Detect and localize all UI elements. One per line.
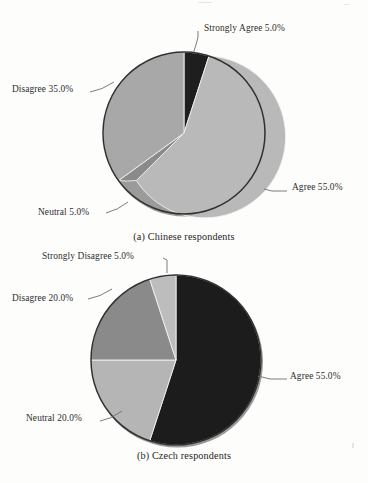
pie-b-canvas <box>0 243 368 483</box>
pie-b-label-neutral: Neutral 20.0% <box>26 413 82 424</box>
pie-b-leader-agree <box>258 376 287 379</box>
pie-a-caption: (a) Chinese respondents <box>0 231 368 242</box>
scan-speck <box>344 4 349 5</box>
pie-b-leader-disagree <box>88 289 112 299</box>
pie-a-label-agree: Agree 55.0% <box>292 182 343 193</box>
pie-a-label-disagree: Disagree 35.0% <box>12 84 73 95</box>
scan-speck <box>198 2 212 3</box>
pie-a-label-neutral: Neutral 5.0% <box>38 207 89 218</box>
pie-b-caption: (b) Czech respondents <box>0 450 368 461</box>
pie-a-leader-strongly-agree <box>194 31 199 53</box>
pie-b-leader-strongly-disagree <box>163 258 167 273</box>
pie-a-leader-disagree <box>90 82 114 92</box>
pie-chart-chinese-respondents: Strongly Agree 5.0% Agree 55.0% Neutral … <box>0 0 368 248</box>
pie-b-label-disagree: Disagree 20.0% <box>12 293 73 304</box>
pie-chart-czech-respondents: Strongly Disagree 5.0% Disagree 20.0% Ne… <box>0 243 368 483</box>
pie-a-leader-neutral <box>106 202 128 213</box>
pie-a-leader-agree <box>264 189 287 191</box>
scan-speck <box>352 443 354 448</box>
pie-b-label-strongly-disagree: Strongly Disagree 5.0% <box>42 251 134 262</box>
pie-b-label-agree: Agree 55.0% <box>290 371 341 382</box>
pie-a-label-strongly-agree: Strongly Agree 5.0% <box>204 23 285 34</box>
figure-page: Strongly Agree 5.0% Agree 55.0% Neutral … <box>0 0 368 483</box>
